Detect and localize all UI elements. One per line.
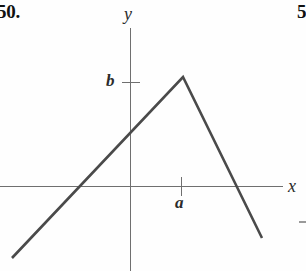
graph-plot [0, 0, 306, 271]
piecewise-linear-curve [12, 77, 262, 258]
x-axis-label: x [288, 177, 296, 195]
page-edge-mark [299, 221, 306, 223]
exercise-figure: 50. 5 y x b a [0, 0, 306, 271]
y-axis-label: y [124, 5, 132, 23]
a-tick-label: a [175, 194, 184, 211]
b-tick-label: b [106, 72, 115, 89]
